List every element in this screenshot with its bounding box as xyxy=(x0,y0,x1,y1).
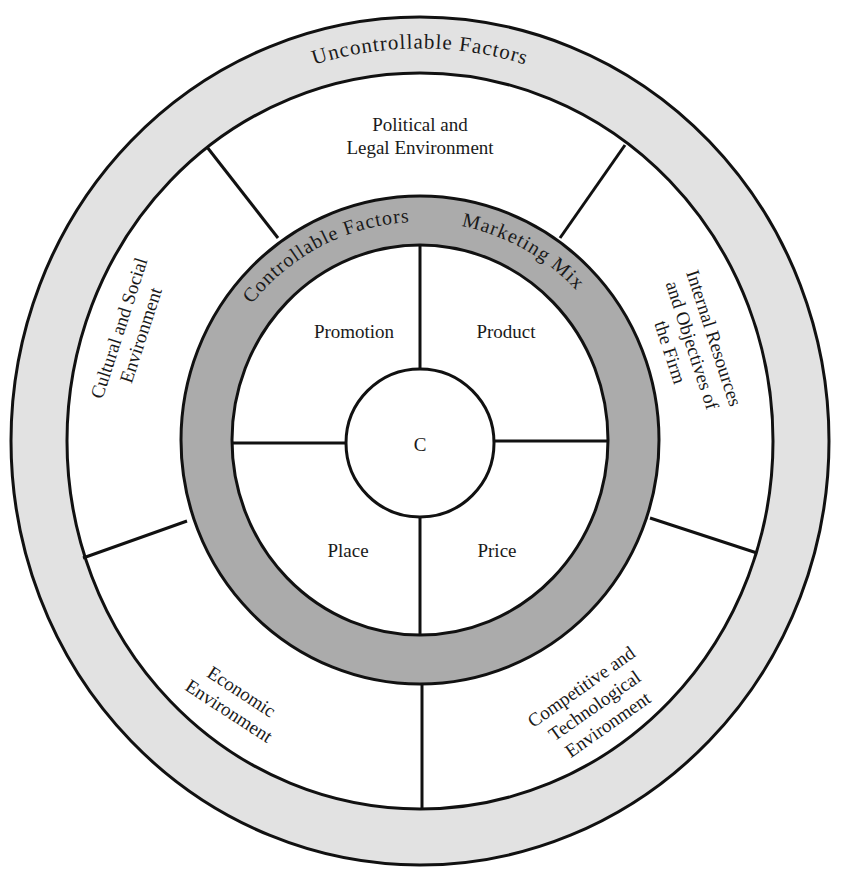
center-label: C xyxy=(414,434,427,455)
mix-promotion: Promotion xyxy=(314,321,395,342)
marketing-environment-diagram: C Uncontrollable Factors Controllable Fa… xyxy=(0,0,845,888)
mix-product: Product xyxy=(476,321,536,342)
env-political-line-1: Political and xyxy=(372,114,468,135)
mix-place: Place xyxy=(327,540,368,561)
mix-price: Price xyxy=(477,540,516,561)
env-political-line-2: Legal Environment xyxy=(346,137,494,158)
